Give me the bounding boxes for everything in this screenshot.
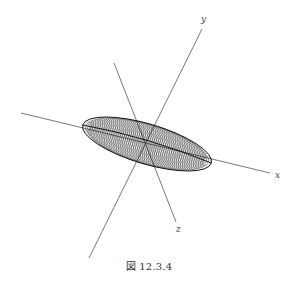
axis-labels: x y z xyxy=(175,14,280,234)
figure-caption: 図 12.3.4 xyxy=(0,258,298,273)
x-axis-label: x xyxy=(275,170,280,180)
y-axis-label: y xyxy=(200,14,207,24)
z-axis-label: z xyxy=(175,224,181,234)
ellipsoid-surface xyxy=(77,106,217,182)
ellipsoid-figure: x y z xyxy=(0,0,298,286)
